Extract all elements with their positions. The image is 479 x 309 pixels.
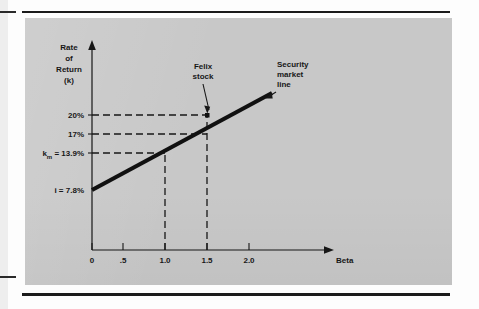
y-tick-label-i-value: = 7.8%: [57, 186, 84, 195]
scanned-page: Rate of Return (k) 20% 17% km = 13.9% i …: [0, 0, 479, 309]
y-axis-title-line-1: Rate: [47, 42, 91, 53]
annotation-sml-line-2: market: [277, 70, 323, 80]
x-tick-label-0-5: .5: [110, 256, 136, 265]
y-axis-title-line-2: of: [47, 53, 91, 64]
annotation-felix-stock: Felix stock: [181, 62, 225, 82]
y-tick-label-20pct: 20%: [22, 111, 84, 120]
x-axis-title: Beta: [336, 256, 353, 265]
annotation-security-market-line: Security market line: [277, 60, 323, 90]
x-tick-label-2-0: 2.0: [236, 256, 262, 265]
x-axis-ticks: [92, 243, 249, 250]
x-axis: [92, 246, 334, 254]
y-tick-label-17pct: 17%: [22, 130, 84, 139]
y-axis-title: Rate of Return (k): [47, 42, 91, 86]
security-market-line-series: [92, 93, 272, 190]
felix-stock-leader-arrow: [203, 84, 210, 114]
y-tick-label-km-value: = 13.9%: [52, 149, 84, 158]
x-tick-label-0: 0: [79, 256, 105, 265]
y-tick-label-i: i = 7.8%: [22, 186, 84, 195]
x-tick-label-1-5: 1.5: [194, 256, 220, 265]
x-tick-label-1-0: 1.0: [152, 256, 178, 265]
annotation-sml-line-1: Security: [277, 60, 323, 70]
y-axis-title-line-4: (k): [47, 75, 91, 86]
security-market-line-chart: Rate of Return (k) 20% 17% km = 13.9% i …: [0, 0, 479, 309]
felix-stock-data-point: [205, 113, 210, 118]
annotation-felix-stock-line-1: Felix: [181, 62, 225, 72]
annotation-sml-line-3: line: [277, 80, 323, 90]
y-axis-title-line-3: Return: [47, 64, 91, 75]
y-tick-label-km: km = 13.9%: [22, 149, 84, 160]
annotation-felix-stock-line-2: stock: [181, 72, 225, 82]
